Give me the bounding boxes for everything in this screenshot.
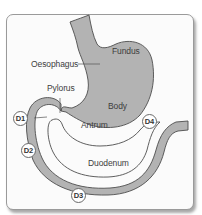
label-oesophagus: Oesophagus	[31, 60, 78, 69]
marker-d2: D2	[21, 143, 36, 158]
label-duodenum: Duodenum	[88, 159, 129, 168]
label-body: Body	[108, 102, 127, 111]
marker-d3: D3	[71, 188, 86, 203]
label-pylorus: Pylorus	[47, 84, 75, 93]
label-antrum: Antrum	[81, 121, 108, 130]
marker-d4: D4	[142, 114, 157, 129]
marker-d1: D1	[13, 111, 28, 126]
label-fundus: Fundus	[112, 47, 140, 56]
stomach-duodenum-illustration	[0, 0, 202, 215]
